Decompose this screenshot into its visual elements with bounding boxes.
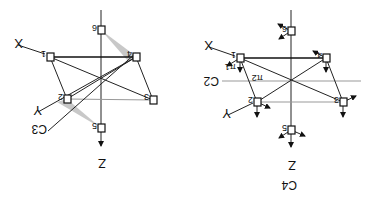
x-axis-label: X xyxy=(14,36,23,51)
label-b4: 4 xyxy=(127,49,132,59)
z-axis-label: Z xyxy=(98,156,106,171)
atom-b6 xyxy=(98,26,105,34)
atom-b1 xyxy=(237,54,244,62)
label-b2: 2 xyxy=(248,95,253,105)
label-b4: 4 xyxy=(317,50,322,60)
label-b5: 5 xyxy=(92,121,97,131)
x-axis-label: X xyxy=(204,38,213,53)
label-b2: 2 xyxy=(58,92,63,102)
label-b1: 1 xyxy=(41,49,46,59)
label-b6: 6 xyxy=(92,23,97,33)
c4-axis-label: C4 xyxy=(281,178,297,192)
atom-b3 xyxy=(150,96,157,104)
atom-b4 xyxy=(133,53,140,61)
label-b5: 5 xyxy=(282,123,287,133)
label-b1: 1 xyxy=(231,50,236,60)
label-b3: 3 xyxy=(334,95,339,105)
atom-b4 xyxy=(323,54,330,62)
atom-b6 xyxy=(288,27,295,35)
c2-axis-label: C2 xyxy=(203,74,219,88)
edge-2-3 xyxy=(67,99,153,100)
z-axis-label: Z xyxy=(288,158,296,173)
pi2-label: π2 xyxy=(252,73,263,83)
y-axis-label: Y xyxy=(33,103,42,118)
y-axis-label: Y xyxy=(222,106,231,121)
octahedron-symmetry-figure: 6 4 1 2 3 5 Z X Y C3 xyxy=(0,0,381,211)
right-panel-c4: 6 4 1 2 3 5 π1 π2 Z C4 C2 X Y xyxy=(203,10,361,192)
atom-b5 xyxy=(288,126,295,134)
y-axis xyxy=(38,57,136,112)
label-b6: 6 xyxy=(282,24,287,34)
atom-b2 xyxy=(64,95,71,103)
left-panel-c3: 6 4 1 2 3 5 Z X Y C3 xyxy=(14,10,157,171)
label-b3: 3 xyxy=(144,92,149,102)
atom-b1 xyxy=(47,53,54,61)
atom-b3 xyxy=(340,98,347,106)
atom-b2 xyxy=(254,98,261,106)
atom-b5 xyxy=(98,124,105,132)
c3-axis-label: C3 xyxy=(31,122,47,136)
c3-axis xyxy=(48,53,136,131)
pi1-label: π1 xyxy=(225,62,236,72)
